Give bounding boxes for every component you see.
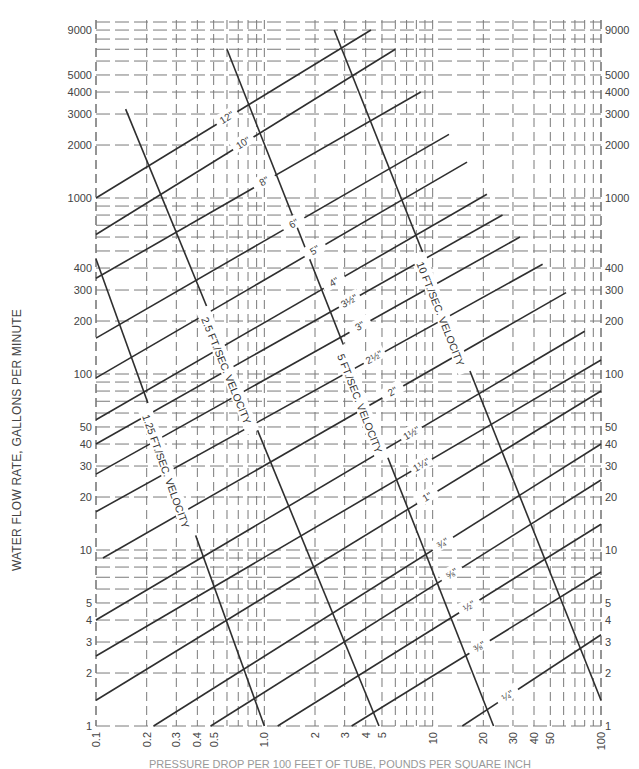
y-axis-title-text: WATER FLOW RATE, GALLONS PER MINUTE [10,309,24,571]
y-tick-label-right: 10 [605,544,617,556]
y-tick-label-right: 3000 [605,108,629,120]
y-tick-label-left: 50 [80,421,92,433]
pipe-line [278,524,601,726]
x-tick-label: 30 [507,732,519,744]
y-tick-label-right: 5 [605,597,611,609]
x-tick-label: 50 [544,732,556,744]
pipe-line [96,162,467,378]
y-tick-label-left: 3 [86,636,92,648]
y-tick-label-left: 300 [74,284,92,296]
y-tick-label-right: 100 [605,368,623,380]
y-tick-label-left: 5000 [68,69,92,81]
y-tick-label-left: 3000 [68,108,92,120]
y-tick-label-left: 4 [86,614,92,626]
x-tick-label: 4 [360,732,372,738]
y-axis-title: WATER FLOW RATE, GALLONS PER MINUTE [2,250,32,630]
y-tick-label-left: 9000 [68,24,92,36]
y-tick-label-right: 9000 [605,24,629,36]
x-tick-label: 100 [595,732,607,750]
x-tick-label: 20 [477,732,489,744]
y-tick-label-left: 40 [80,438,92,450]
y-tick-label-right: 1 [605,720,611,732]
y-tick-label-right: 200 [605,315,623,327]
velocity-label: 5 FT./SEC. VELOCITY [335,352,385,455]
x-tick-label: 0.2 [141,732,153,747]
x-tick-label: 0.5 [208,732,220,747]
x-tick-label: 5 [376,732,388,738]
x-tick-label: 3 [339,732,351,738]
y-tick-label-left: 4000 [68,86,92,98]
y-tick-label-right: 5000 [605,69,629,81]
y-tick-label-left: 10 [80,544,92,556]
y-tick-label-left: 5 [86,597,92,609]
y-tick-label-left: 100 [74,368,92,380]
y-tick-label-right: 30 [605,460,617,472]
y-tick-label-right: 40 [605,438,617,450]
x-tick-label: 1.0 [258,732,270,747]
pipe-line [96,391,601,700]
y-tick-label-right: 4 [605,614,611,626]
y-tick-label-right: 2000 [605,139,629,151]
x-tick-label: 40 [528,732,540,744]
y-tick-label-left: 30 [80,460,92,472]
y-tick-label-right: 2 [605,667,611,679]
y-tick-label-left: 2000 [68,139,92,151]
y-tick-label-right: 3 [605,636,611,648]
nomograph-plot: 12"10"8"6"5"4"3½"3"2½"2"1½"1¼"1"¾"⅝"½"⅜"… [0,0,639,769]
y-tick-label-left: 2 [86,667,92,679]
velocity-label: 10 FT./SEC. VELOCITY [414,260,466,368]
y-tick-label-left: 1000 [68,192,92,204]
x-tick-label: 0.4 [191,732,203,747]
y-tick-label-right: 300 [605,284,623,296]
x-tick-label: 2 [309,732,321,738]
x-tick-label: 0.1 [90,732,102,747]
x-tick-label: 10 [427,732,439,744]
y-tick-label-right: 1000 [605,192,629,204]
y-tick-label-left: 20 [80,491,92,503]
y-tick-label-left: 1 [86,720,92,732]
velocity-label: 1.25 FT./SEC. VELOCITY [140,413,192,530]
x-axis-title: PRESSURE DROP PER 100 FEET OF TUBE, POUN… [140,760,540,769]
x-axis-title-text: PRESSURE DROP PER 100 FEET OF TUBE, POUN… [149,760,531,769]
y-tick-label-right: 4000 [605,86,629,98]
pipe-line [103,293,566,558]
y-tick-label-left: 200 [74,315,92,327]
y-tick-label-left: 400 [74,262,92,274]
x-tick-label: 0.3 [170,732,182,747]
y-tick-label-right: 400 [605,262,623,274]
y-tick-label-right: 20 [605,491,617,503]
y-tick-label-right: 50 [605,421,617,433]
